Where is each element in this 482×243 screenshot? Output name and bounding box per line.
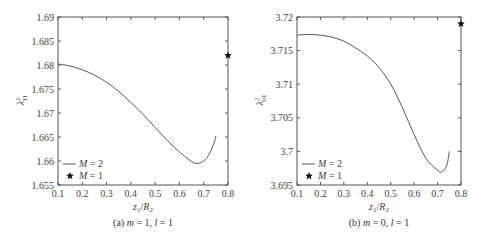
legend-label-m2: M = 2 — [317, 158, 342, 169]
svg-text:3.695: 3.695 — [271, 180, 294, 191]
svg-text:1.68: 1.68 — [37, 60, 55, 71]
svg-text:0.5: 0.5 — [384, 188, 397, 199]
svg-text:0.8: 0.8 — [455, 188, 468, 199]
chart-a-legend: M = 2 M = 1 — [63, 158, 103, 181]
svg-text:λ211: λ211 — [14, 94, 29, 106]
svg-text:3.715: 3.715 — [271, 45, 294, 56]
svg-text:1.66: 1.66 — [37, 156, 55, 167]
svg-text:1.655: 1.655 — [32, 180, 55, 191]
legend-label-m2: M = 2 — [78, 158, 103, 169]
chart-b-xlabel: z1/R2 — [368, 201, 389, 214]
chart-b-legend: M = 2 M = 1 — [302, 158, 342, 181]
legend-star-icon — [305, 172, 313, 179]
svg-text:0.2: 0.2 — [314, 188, 327, 199]
legend-star-icon — [66, 172, 74, 179]
svg-text:3.72: 3.72 — [276, 12, 294, 23]
svg-text:0.3: 0.3 — [338, 188, 351, 199]
svg-text:0.7: 0.7 — [431, 188, 444, 199]
svg-text:0.2: 0.2 — [76, 188, 89, 199]
svg-text:3.71: 3.71 — [276, 79, 294, 90]
chart-a-axes: 0.10.20.30.40.50.60.70.81.6551.661.6651.… — [32, 12, 235, 200]
svg-text:1.685: 1.685 — [32, 36, 55, 47]
svg-text:3.7: 3.7 — [281, 146, 294, 157]
chart-a-ylabel: λ211 — [14, 94, 29, 106]
svg-text:0.8: 0.8 — [222, 188, 235, 199]
svg-text:3.705: 3.705 — [271, 112, 294, 123]
legend-label-m1: M = 1 — [78, 170, 103, 181]
chart-b-ylabel: λ201 — [253, 94, 268, 106]
chart-b-svg: 0.10.20.30.40.50.60.70.83.6953.73.7053.7… — [241, 0, 482, 243]
legend-label-m1: M = 1 — [317, 170, 342, 181]
svg-text:0.3: 0.3 — [100, 188, 113, 199]
svg-text:0.5: 0.5 — [149, 188, 162, 199]
chart-panel-a: 0.10.20.30.40.50.60.70.81.6551.661.6651.… — [0, 0, 241, 243]
chart-a-xlabel: z1/R2 — [132, 201, 153, 214]
svg-text:0.6: 0.6 — [173, 188, 186, 199]
svg-text:1.675: 1.675 — [32, 84, 55, 95]
chart-b-series-m2-line — [297, 34, 449, 172]
svg-text:0.6: 0.6 — [408, 188, 421, 199]
svg-text:1.67: 1.67 — [37, 108, 55, 119]
chart-b-caption: (b) m = 0, l = 1 — [349, 217, 409, 229]
chart-panel-b: 0.10.20.30.40.50.60.70.83.6953.73.7053.7… — [241, 0, 482, 243]
chart-a-caption: (a) m = 1, l = 1 — [113, 217, 173, 229]
chart-a-series-m2-line — [58, 64, 216, 163]
svg-text:1.69: 1.69 — [37, 12, 55, 23]
svg-text:λ201: λ201 — [253, 94, 268, 106]
svg-text:1.665: 1.665 — [32, 132, 55, 143]
svg-text:0.4: 0.4 — [125, 188, 138, 199]
svg-text:0.4: 0.4 — [361, 188, 374, 199]
chart-a-svg: 0.10.20.30.40.50.60.70.81.6551.661.6651.… — [0, 0, 241, 243]
svg-text:0.7: 0.7 — [197, 188, 210, 199]
